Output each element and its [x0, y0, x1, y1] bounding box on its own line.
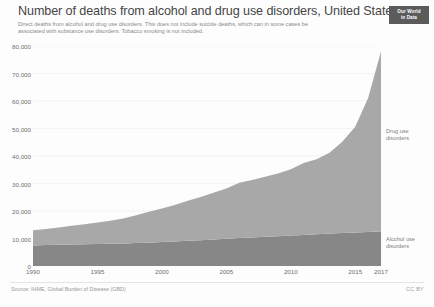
x-axis-tick-label: 2000 [155, 268, 169, 275]
stacked-area-chart [33, 46, 381, 266]
footer-divider [10, 282, 424, 283]
x-axis: 1990199520002005201020152017 [33, 268, 381, 280]
series-label-alcohol-use: Alcohol use disorders [386, 236, 415, 250]
y-axis-tick-label: 10,000 [12, 235, 31, 242]
license-note: CC BY [406, 286, 424, 292]
area-series-drug-use-disorders[interactable] [33, 52, 381, 246]
x-axis-tick-label: 2010 [284, 268, 298, 275]
logo-line-2: in Data [401, 15, 417, 21]
y-axis-tick-label: 50,000 [12, 125, 31, 132]
y-axis-tick-label: 30,000 [12, 180, 31, 187]
y-axis-tick-label: 40,000 [12, 153, 31, 160]
area-series-group [33, 52, 381, 267]
x-axis-tick-label: 1995 [91, 268, 105, 275]
series-label-drug-use: Drug use disorders [386, 128, 409, 142]
y-axis: 010,00020,00030,00040,00050,00060,00070,… [0, 46, 31, 266]
our-world-in-data-logo[interactable]: Our World in Data [389, 6, 429, 24]
x-axis-tick-label: 1990 [26, 268, 40, 275]
x-axis-tick-label: 2005 [219, 268, 233, 275]
y-axis-tick-label: 70,000 [12, 70, 31, 77]
plot-area [33, 46, 381, 266]
x-axis-tick-label: 2015 [348, 268, 362, 275]
x-axis-tick-label: 2017 [374, 268, 388, 275]
chart-title: Number of deaths from alcohol and drug u… [18, 4, 383, 18]
chart-subtitle: Direct deaths from alcohol and drug use … [18, 21, 318, 36]
source-note: Source: IHME, Global Burden of Disease (… [11, 286, 126, 292]
y-axis-tick-label: 80,000 [12, 43, 31, 50]
y-axis-tick-label: 60,000 [12, 98, 31, 105]
chart-header: Number of deaths from alcohol and drug u… [18, 4, 383, 36]
y-axis-tick-label: 20,000 [12, 208, 31, 215]
chart-card: Number of deaths from alcohol and drug u… [0, 0, 434, 307]
